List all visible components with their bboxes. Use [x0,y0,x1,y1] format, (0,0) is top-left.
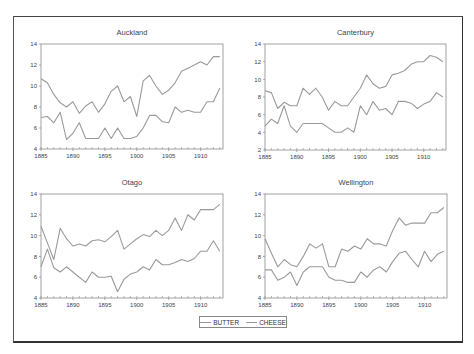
x-tick-label: 1905 [386,302,400,308]
plot-area [265,194,447,298]
chart-panel-canterbury: Canterbury246810121418851890189519001905… [254,28,446,160]
y-tick-label: 12 [30,212,37,218]
legend: BUTTER CHEESE [199,316,287,328]
x-tick-label: 1900 [354,154,368,160]
series-line-butter [265,56,443,111]
series-line-butter [265,208,444,267]
series-line-cheese [265,93,443,133]
x-tick-label: 1905 [162,302,176,308]
x-tick-label: 1885 [34,153,48,159]
y-tick-label: 4 [258,295,262,301]
charts-canvas: Auckland46810121418851890189519001905191… [0,0,474,354]
x-tick-label: 1900 [354,302,368,308]
x-tick-label: 1895 [322,302,336,308]
legend-item-butter: BUTTER [200,319,239,326]
y-tick-label: 12 [254,59,261,65]
x-tick-label: 1910 [194,153,208,159]
chart-panel-auckland: Auckland46810121418851890189519001905191… [30,28,223,159]
x-tick-label: 1890 [66,302,80,308]
series-line-butter [41,204,220,259]
y-tick-label: 8 [258,254,262,260]
chart-title: Canterbury [337,28,374,37]
x-tick-label: 1885 [34,302,48,308]
y-tick-label: 10 [254,77,261,83]
legend-label-butter: BUTTER [213,319,239,326]
y-tick-label: 10 [30,83,37,89]
legend-label-cheese: CHEESE [259,319,286,326]
y-tick-label: 8 [34,254,38,260]
plot-area [41,44,223,149]
x-tick-label: 1885 [258,302,272,308]
series-line-cheese [41,241,220,292]
legend-item-cheese: CHEESE [246,319,286,326]
y-tick-label: 4 [34,146,38,152]
y-tick-label: 14 [254,191,261,197]
x-tick-label: 1905 [162,153,176,159]
y-tick-label: 8 [258,94,262,100]
x-tick-label: 1905 [385,154,399,160]
y-tick-label: 14 [30,191,37,197]
series-line-butter [41,57,220,117]
x-tick-label: 1895 [98,153,112,159]
x-tick-label: 1910 [418,302,432,308]
chart-panel-wellington: Wellington468101214188518901895190019051… [254,178,447,308]
chart-title: Wellington [339,178,374,187]
x-tick-label: 1895 [322,154,336,160]
x-tick-label: 1910 [194,302,208,308]
x-tick-label: 1885 [258,154,272,160]
y-tick-label: 10 [254,233,261,239]
y-tick-label: 14 [254,41,261,47]
y-tick-label: 6 [34,125,38,131]
y-tick-label: 8 [34,104,38,110]
plot-area [41,194,223,298]
plot-area [265,44,446,150]
y-tick-label: 12 [30,62,37,68]
cheese-line-swatch-icon [246,322,257,323]
chart-title: Otago [122,178,142,187]
y-tick-label: 10 [30,233,37,239]
x-tick-label: 1890 [290,154,304,160]
x-tick-label: 1895 [98,302,112,308]
x-tick-label: 1900 [130,153,144,159]
y-tick-label: 6 [34,274,38,280]
y-tick-label: 6 [258,112,262,118]
y-tick-label: 14 [30,41,37,47]
figure: Auckland46810121418851890189519001905191… [0,0,474,354]
y-tick-label: 12 [254,212,261,218]
x-tick-label: 1910 [417,154,431,160]
chart-title: Auckland [117,28,148,37]
x-tick-label: 1900 [130,302,144,308]
y-tick-label: 4 [258,130,262,136]
series-line-cheese [265,251,444,285]
y-tick-label: 4 [34,295,38,301]
chart-panel-otago: Otago468101214188518901895190019051910 [30,178,223,308]
x-tick-label: 1890 [66,153,80,159]
x-tick-label: 1890 [290,302,304,308]
series-line-cheese [41,88,220,139]
y-tick-label: 6 [258,274,262,280]
y-tick-label: 2 [258,147,262,153]
butter-line-swatch-icon [200,322,211,323]
